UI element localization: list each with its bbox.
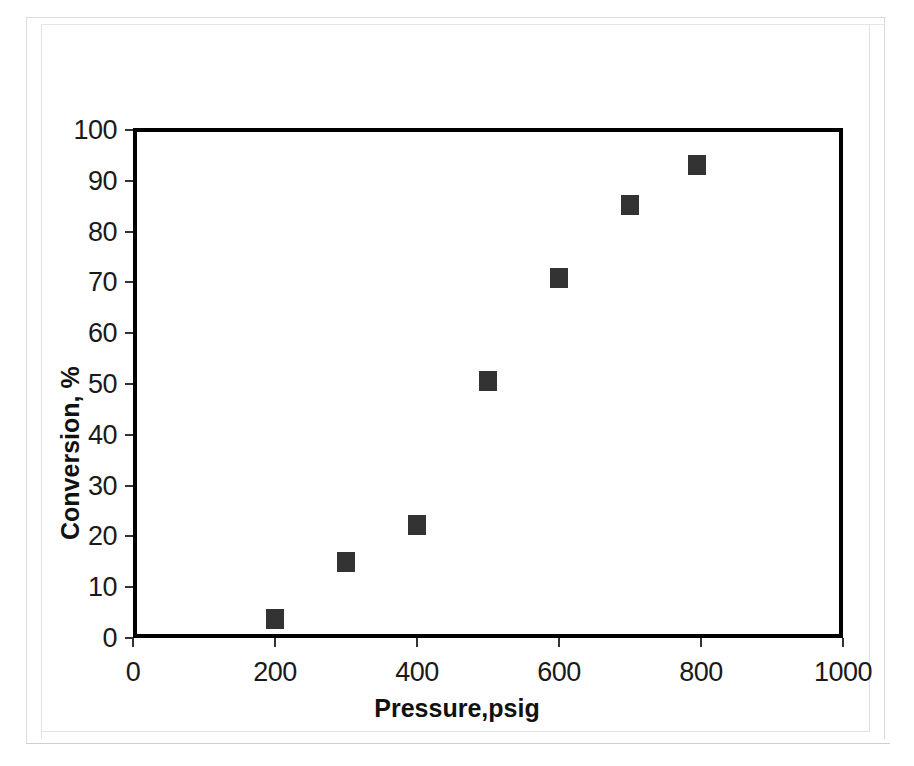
y-axis-tick-label: 90: [88, 165, 117, 196]
data-point-marker: [408, 515, 426, 535]
y-axis-tick: [125, 231, 133, 233]
data-point-marker: [479, 371, 497, 391]
y-axis-tick: [125, 332, 133, 334]
y-axis-title: Conversion, %: [22, 240, 64, 540]
data-point-marker: [550, 268, 568, 288]
x-axis-tick: [558, 638, 560, 647]
y-axis-tick-label: 30: [88, 470, 117, 501]
y-axis-tick: [125, 180, 133, 182]
scatter-chart: 0102030405060708090100 02004006008001000…: [0, 0, 914, 766]
y-axis-tick: [125, 434, 133, 436]
y-axis-tick-label: 100: [73, 115, 117, 146]
y-axis-tick: [125, 383, 133, 385]
x-axis-tick-label: 600: [537, 657, 581, 688]
x-axis-tick-label: 400: [395, 657, 439, 688]
data-point-marker: [266, 609, 284, 629]
y-axis-tick: [125, 586, 133, 588]
y-axis-tick: [125, 535, 133, 537]
y-axis-tick-label: 20: [88, 521, 117, 552]
y-axis-tick-label: 70: [88, 267, 117, 298]
y-axis-tick-label: 0: [102, 623, 117, 654]
data-point-marker: [621, 195, 639, 215]
y-axis-tick-label: 10: [88, 572, 117, 603]
y-axis-tick: [125, 129, 133, 131]
x-axis-title: Pressure,psig: [0, 694, 914, 723]
data-point-marker: [337, 552, 355, 572]
y-axis-tick-label: 50: [88, 369, 117, 400]
y-axis-tick-label: 40: [88, 419, 117, 450]
x-axis-tick: [416, 638, 418, 647]
scanned-page: 0102030405060708090100 02004006008001000…: [0, 0, 914, 766]
data-point-marker: [688, 155, 706, 175]
x-axis-tick-label: 800: [679, 657, 723, 688]
y-axis-tick-label: 60: [88, 318, 117, 349]
x-axis-tick: [842, 638, 844, 647]
y-axis-tick: [125, 281, 133, 283]
x-axis-tick-label: 1000: [814, 657, 872, 688]
x-axis-tick-label: 0: [126, 657, 141, 688]
y-axis-tick-label: 80: [88, 216, 117, 247]
y-axis-title-text: Conversion, %: [56, 366, 85, 540]
y-axis-tick: [125, 485, 133, 487]
x-axis-tick: [132, 638, 134, 647]
x-axis-tick-label: 200: [253, 657, 297, 688]
x-axis-tick: [700, 638, 702, 647]
x-axis-tick: [274, 638, 276, 647]
